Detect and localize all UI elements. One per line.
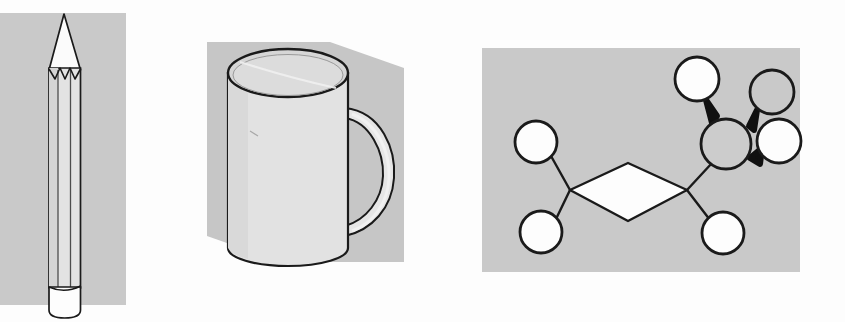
illustration-canvas (0, 0, 845, 322)
atom-center-gray (701, 119, 751, 169)
mug-rim-inner (233, 55, 343, 96)
atom-right-gray (750, 70, 794, 114)
atom-far-right (757, 119, 801, 163)
pencil-ferrule (49, 287, 81, 318)
atom-lower-right (702, 212, 744, 254)
atom-upper-left (515, 121, 557, 163)
figure-root: Three line-drawn objects on gray panels … (0, 0, 845, 322)
pencil-shaft-shade (49, 68, 58, 288)
mug-body-shade (228, 73, 248, 259)
atom-top-white (675, 57, 719, 101)
atom-lower-left (520, 211, 562, 253)
